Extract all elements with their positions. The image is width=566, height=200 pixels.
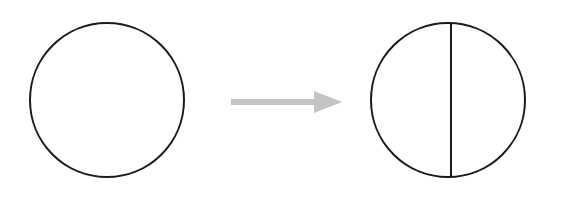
- diagram-canvas: Whole circle transformed into a circle d…: [0, 0, 566, 200]
- diagram-svg: [0, 0, 566, 200]
- arrow-shaft: [231, 99, 319, 105]
